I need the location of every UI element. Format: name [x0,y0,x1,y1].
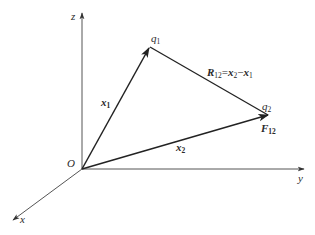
x-axis-label: x [20,214,25,225]
F12-label: F12 [261,123,276,136]
vector-x1 [82,48,149,169]
diagram-canvas: z y x O q1 q2 x1 x2 R12=x2−x1 F12 [0,0,315,235]
q1-label: q1 [151,33,160,46]
vector-x2 [82,115,268,169]
y-axis-label: y [298,173,303,184]
vector-R12 [150,47,268,115]
R12-label: R12=x2−x1 [207,67,253,80]
q2-label: q2 [262,101,271,114]
z-axis-label: z [71,11,75,22]
origin-label: O [67,158,75,169]
x2-label: x2 [176,142,185,155]
x1-label: x1 [101,97,110,110]
